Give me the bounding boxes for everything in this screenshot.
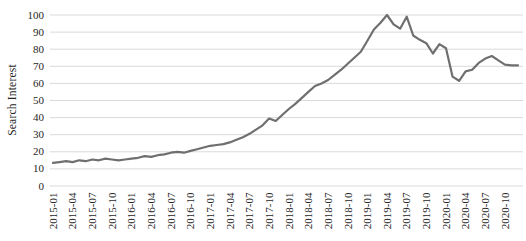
x-tick-label: 2019-07 — [400, 192, 412, 229]
x-tick-label: 2017-01 — [204, 193, 216, 230]
x-tick-label: 2016-10 — [184, 192, 196, 229]
y-tick-label: 30 — [33, 128, 45, 140]
x-tick-label: 2016-01 — [125, 193, 137, 230]
y-tick-label: 100 — [28, 9, 45, 21]
y-axis-title: Search Interest — [6, 30, 18, 170]
x-tick-label: 2020-10 — [499, 192, 511, 229]
x-tick-label: 2020-07 — [479, 192, 491, 229]
x-tick-label: 2019-10 — [420, 192, 432, 229]
x-tick-label: 2018-01 — [283, 193, 295, 230]
x-tick-label: 2016-04 — [145, 192, 157, 229]
x-tick-label: 2017-10 — [263, 192, 275, 229]
y-tick-label: 60 — [33, 77, 45, 89]
x-tick-label: 2015-04 — [66, 192, 78, 229]
line-chart-canvas: 01020304050607080901002015-012015-042015… — [0, 0, 526, 241]
y-tick-label: 90 — [33, 26, 45, 38]
x-tick-label: 2020-01 — [440, 193, 452, 230]
series-line-search-interest — [53, 15, 518, 163]
x-tick-label: 2019-04 — [381, 192, 393, 229]
x-tick-label: 2017-04 — [224, 192, 236, 229]
x-tick-label: 2020-04 — [459, 192, 471, 229]
x-tick-label: 2018-04 — [302, 192, 314, 229]
x-tick-label: 2019-01 — [361, 193, 373, 230]
x-tick-label: 2016-07 — [165, 192, 177, 229]
x-tick-label: 2018-07 — [322, 192, 334, 229]
x-tick-label: 2015-10 — [106, 192, 118, 229]
x-tick-label: 2015-07 — [86, 192, 98, 229]
x-tick-label: 2018-10 — [342, 192, 354, 229]
y-tick-label: 80 — [33, 43, 45, 55]
y-tick-label: 10 — [33, 162, 45, 174]
x-tick-label: 2015-01 — [47, 193, 59, 230]
y-tick-label: 50 — [33, 94, 45, 106]
y-tick-label: 20 — [33, 145, 45, 157]
y-tick-label: 0 — [39, 180, 45, 192]
x-tick-label: 2017-07 — [243, 192, 255, 229]
y-tick-label: 40 — [33, 111, 45, 123]
y-tick-label: 70 — [33, 60, 45, 72]
search-interest-line-chart: Search Interest 010203040506070809010020… — [0, 0, 526, 241]
